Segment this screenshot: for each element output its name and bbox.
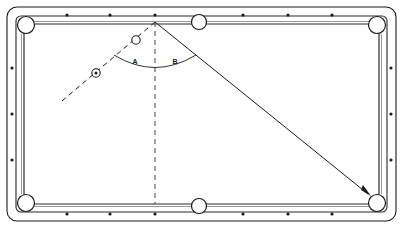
sight-dot-top-6 bbox=[330, 13, 333, 16]
sight-dot-bottom-2 bbox=[108, 212, 111, 215]
sight-dot-bottom-1 bbox=[65, 212, 68, 215]
sight-dot-left-1 bbox=[10, 66, 13, 69]
sight-dot-top-1 bbox=[65, 13, 68, 16]
angle-label-a: A bbox=[132, 58, 137, 65]
object-ball bbox=[132, 36, 140, 44]
sight-dot-right-3 bbox=[389, 158, 392, 161]
angle-label-b: B bbox=[172, 58, 177, 65]
table-frame bbox=[7, 7, 396, 221]
pocket-bottom-right bbox=[369, 195, 386, 212]
sight-dot-top-3 bbox=[153, 13, 156, 16]
sight-dot-bottom-6 bbox=[330, 212, 333, 215]
billiard-table-diagram: A B bbox=[0, 0, 403, 228]
sight-dot-bottom-5 bbox=[286, 212, 289, 215]
cue-ball-center-dot-icon bbox=[95, 72, 98, 75]
sight-dot-top-4 bbox=[241, 13, 244, 16]
pocket-top-right bbox=[369, 17, 386, 34]
sight-dot-left-2 bbox=[10, 112, 13, 115]
sight-dot-bottom-3 bbox=[153, 212, 156, 215]
sight-dot-bottom-4 bbox=[241, 212, 244, 215]
billiard-diagram-figure: A B bbox=[0, 0, 403, 228]
pocket-top-left bbox=[18, 17, 35, 34]
sight-dot-right-2 bbox=[389, 112, 392, 115]
sight-dot-right-1 bbox=[389, 66, 392, 69]
sight-dot-left-3 bbox=[10, 158, 13, 161]
sight-dot-top-2 bbox=[108, 13, 111, 16]
pocket-bottom-left bbox=[18, 195, 35, 212]
table-bed bbox=[24, 24, 379, 204]
pocket-bottom-middle bbox=[192, 199, 207, 214]
pocket-top-middle bbox=[192, 15, 207, 30]
sight-dot-top-5 bbox=[286, 13, 289, 16]
